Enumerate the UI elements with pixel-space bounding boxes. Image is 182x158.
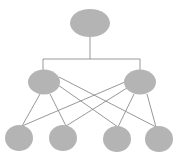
- node-leaf-4: [145, 126, 173, 152]
- node-leaf-2: [49, 125, 77, 151]
- edge-mid-right-leaf-4: [147, 94, 156, 127]
- node-root: [70, 9, 110, 37]
- node-leaf-1: [5, 125, 33, 151]
- node-leaf-3: [103, 126, 131, 152]
- nodes: [5, 9, 173, 152]
- node-mid-right: [124, 70, 156, 95]
- edge-mid-left-leaf-3: [58, 85, 118, 127]
- hierarchy-diagram: [0, 0, 182, 158]
- node-mid-left: [28, 70, 60, 95]
- edge-mid-right-leaf-3: [118, 94, 134, 127]
- edge-mid-left-leaf-2: [50, 94, 66, 126]
- edge-mid-left-leaf-1: [22, 94, 40, 126]
